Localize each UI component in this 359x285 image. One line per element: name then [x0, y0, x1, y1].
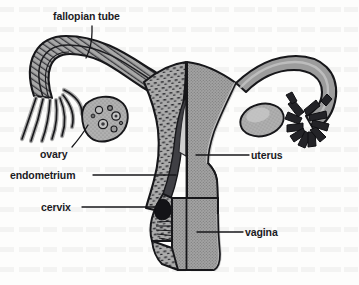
- ovary-right: [237, 99, 287, 141]
- uterus-right-half: [187, 62, 236, 214]
- anatomy-illustration: [0, 0, 359, 285]
- label-vagina: vagina: [245, 227, 278, 238]
- leader-ovary: [72, 125, 88, 147]
- label-ovary: ovary: [40, 149, 68, 160]
- label-endometrium: endometrium: [10, 170, 75, 181]
- figure-page: fallopian tube ovary endometrium cervix …: [0, 0, 359, 285]
- label-cervix: cervix: [41, 202, 71, 213]
- label-uterus: uterus: [251, 150, 283, 161]
- label-fallopian-tube: fallopian tube: [53, 11, 120, 22]
- uterus-left-section: [144, 62, 186, 212]
- ovary-left: [82, 97, 128, 142]
